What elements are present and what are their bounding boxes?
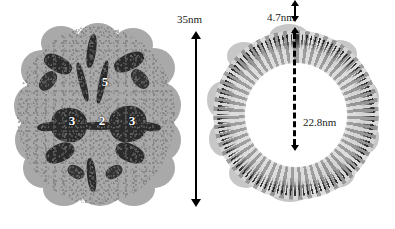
arrowhead-down-icon [291, 145, 299, 151]
symmetry-axis-label-3-left: 3 [65, 114, 79, 127]
dimension-arrow-4-7nm [289, 0, 301, 22]
virus-capsid-figure: 5 3 2 3 35nm [0, 0, 395, 229]
dimension-arrow-22-8nm [289, 27, 301, 151]
symmetry-axis-label-5: 5 [98, 75, 112, 88]
capsid-surface-panel: 5 3 2 3 [0, 0, 195, 229]
arrowhead-down-icon [291, 16, 299, 22]
arrow-shaft-dashed [293, 33, 296, 145]
capsid-cross-section-panel: 4.7nm 22.8nm [195, 0, 395, 229]
dimension-label-22-8nm: 22.8nm [303, 116, 336, 128]
symmetry-axis-label-2: 2 [95, 114, 109, 127]
symmetry-axis-label-3-right: 3 [125, 114, 139, 127]
